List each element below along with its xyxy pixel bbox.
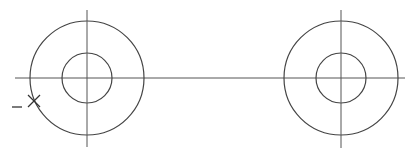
cad-drawing-canvas[interactable]: [0, 0, 415, 157]
